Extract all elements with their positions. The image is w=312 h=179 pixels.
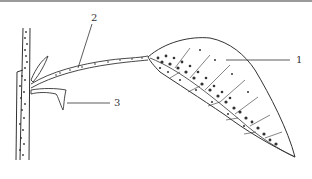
- plant-diagram: [0, 0, 312, 179]
- label-2: 2: [91, 13, 97, 23]
- upper-leaflet: [31, 56, 48, 82]
- label-1: 1: [296, 55, 302, 65]
- leaf-blade: [148, 38, 295, 157]
- stem: [16, 28, 30, 160]
- petiole: [31, 56, 148, 88]
- stipule: [31, 89, 66, 111]
- label-3: 3: [114, 98, 120, 108]
- leader-line-2: [78, 24, 92, 68]
